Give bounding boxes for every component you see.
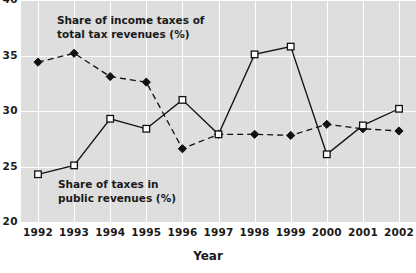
data-point-s2-2002 [396,105,403,112]
x-tick-label-1998: 1998 [240,226,270,238]
data-point-s2-1996 [179,97,186,104]
series-line-2 [38,47,399,175]
data-point-s2-2000 [324,151,331,158]
data-point-s2-1992 [35,171,42,178]
data-point-s1-2000 [323,120,331,128]
data-point-s1-1992 [34,58,42,66]
y-tick-label-40: 40 [0,0,18,5]
data-point-s2-1999 [287,43,294,50]
x-tick-label-2001: 2001 [348,226,378,238]
data-point-s2-2001 [360,122,367,129]
annotation-income-taxes: Share of income taxes oftotal tax revenu… [57,13,204,41]
x-tick-label-1993: 1993 [59,226,89,238]
data-point-s2-1997 [215,131,222,138]
y-tick-label-25: 25 [0,160,18,172]
data-point-s1-2002 [395,127,403,135]
data-point-s2-1995 [143,125,150,132]
data-point-s2-1998 [251,51,258,58]
x-tick-label-1992: 1992 [23,226,53,238]
annotation-income-line-2: total tax revenues (%) [57,27,204,41]
annotation-public-line-1: Share of taxes in [58,177,176,191]
x-tick-label-1997: 1997 [203,226,233,238]
y-tick-label-35: 35 [0,49,18,61]
data-point-s1-1998 [251,130,259,138]
x-tick-label-1996: 1996 [167,226,197,238]
data-point-s1-1996 [178,145,186,153]
chart-root: 2025303540 19921993199419951996199719981… [0,0,416,273]
annotation-income-line-1: Share of income taxes of [57,13,204,27]
x-tick-label-1994: 1994 [95,226,125,238]
x-axis: 1992199319941995199619971998199920002001… [21,226,416,246]
annotation-public-line-2: public revenues (%) [58,191,176,205]
data-point-s1-1995 [142,78,150,86]
data-point-s1-1994 [106,72,114,80]
x-tick-label-1995: 1995 [131,226,161,238]
data-point-s1-1993 [70,49,78,57]
y-tick-label-30: 30 [0,104,18,116]
x-tick-label-1999: 1999 [276,226,306,238]
data-point-s2-1993 [71,162,78,169]
data-point-s1-1999 [287,131,295,139]
y-tick-label-20: 20 [0,215,18,227]
x-tick-label-2002: 2002 [384,226,414,238]
annotation-public-revenues: Share of taxes inpublic revenues (%) [58,177,176,205]
x-tick-label-2000: 2000 [312,226,342,238]
x-axis-title: Year [0,249,416,263]
data-point-s2-1994 [107,115,114,122]
